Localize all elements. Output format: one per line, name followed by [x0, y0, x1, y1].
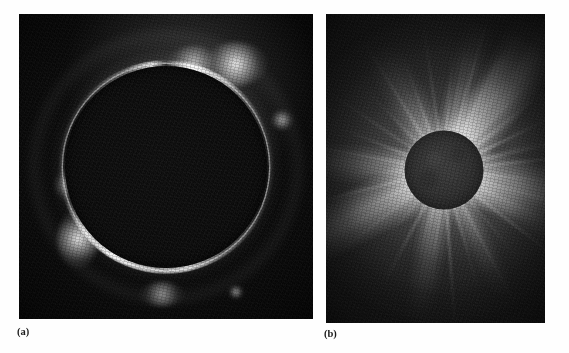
eclipse-panel-b	[326, 14, 545, 323]
panel-b-lunar-disk	[405, 131, 484, 210]
panel-a-caption: (a)	[17, 327, 29, 338]
panel-a-prominence-right	[271, 110, 293, 130]
eclipse-panel-a	[19, 14, 313, 319]
panel-a-bead-lower-arc	[139, 282, 185, 306]
panel-a-bead-lower-right	[229, 286, 243, 298]
panel-b-caption: (b)	[324, 329, 337, 340]
figure-root: (a) (b)	[0, 0, 569, 353]
panel-a-lunar-disk	[65, 66, 267, 268]
panel-b-lunar-surface-texture	[405, 131, 484, 210]
